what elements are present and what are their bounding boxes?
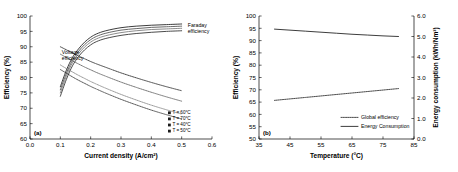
y-tick-label-b: 90 bbox=[249, 37, 256, 44]
legend-label-a-0: T = 60°C bbox=[172, 110, 191, 115]
x-tick-label-a: 0.2 bbox=[86, 141, 95, 148]
axes-b bbox=[259, 16, 414, 139]
x-tick-label-b: 75 bbox=[380, 141, 387, 148]
x-tick-label-a: 0.0 bbox=[26, 141, 35, 148]
figure-container: 0.00.10.20.30.40.50.6 606570758085909510… bbox=[0, 0, 458, 172]
y-tick-label-a: 100 bbox=[17, 12, 28, 19]
y-tick-label-a: 65 bbox=[20, 120, 27, 127]
y-tick-label-b: 75 bbox=[249, 74, 256, 81]
y-axis-title-b: Efficiency (%) bbox=[232, 56, 240, 99]
y-tick-label-a: 90 bbox=[20, 43, 27, 50]
y2-tick-label-b: 0.0 bbox=[417, 135, 426, 142]
x-tick-label-b: 55 bbox=[318, 141, 325, 148]
y-tick-label-a: 70 bbox=[20, 104, 27, 111]
legend-item-a-0[interactable]: T = 60°C bbox=[168, 110, 191, 115]
chart-a-svg: 0.00.10.20.30.40.50.6 606570758085909510… bbox=[0, 0, 229, 172]
legend-item-a-2[interactable]: T = 40°C bbox=[168, 122, 191, 127]
chart-panel-a: 0.00.10.20.30.40.50.6 606570758085909510… bbox=[0, 0, 229, 172]
data-curves-b bbox=[275, 29, 399, 100]
x-tick-label-a: 0.6 bbox=[208, 141, 217, 148]
y2-axis-title-b: Energy consumption (kWh/Nm³) bbox=[432, 27, 440, 127]
y2-tick-label-b: 3.0 bbox=[417, 74, 426, 81]
y2-tick-label-b: 1.0 bbox=[417, 115, 426, 122]
y-tick-label-a: 75 bbox=[20, 89, 27, 96]
legend-marker-square-filled bbox=[168, 111, 171, 114]
y-tick-label-b: 85 bbox=[249, 49, 256, 56]
y-tick-label-b: 55 bbox=[249, 123, 256, 130]
x-axis-title-a: Current density (A/cm²) bbox=[84, 152, 157, 160]
x-tick-label-a: 0.1 bbox=[56, 141, 65, 148]
legend-item-a-3[interactable]: T = 50°C bbox=[168, 128, 191, 133]
x-tick-label-a: 0.5 bbox=[177, 141, 186, 148]
y-tick-labels-b: 50556065707580859095100 bbox=[246, 12, 257, 142]
y2-tick-label-b: 5.0 bbox=[417, 33, 426, 40]
legend-b[interactable]: Global efficiencyEnergy Consumption bbox=[341, 114, 410, 129]
x-tick-labels-a: 0.00.10.20.30.40.50.6 bbox=[26, 141, 217, 148]
x-tick-label-a: 0.3 bbox=[117, 141, 126, 148]
y-tick-label-a: 80 bbox=[20, 74, 27, 81]
y-tick-labels-a: 6065707580859095100 bbox=[17, 12, 28, 142]
chart-b-svg: 354555657585 50556065707580859095100 0.0… bbox=[229, 0, 458, 172]
y-tick-label-a: 95 bbox=[20, 28, 27, 35]
y-tick-label-a: 60 bbox=[20, 135, 27, 142]
annotations-a: FaradayefficiencyVoltageefficiency bbox=[62, 22, 210, 61]
legend-label-b-1: Energy Consumption bbox=[361, 123, 410, 129]
legend-a[interactable]: T = 60°CT = 70°CT = 40°CT = 50°C bbox=[168, 110, 191, 133]
legend-item-b-0[interactable]: Global efficiency bbox=[341, 114, 399, 120]
x-axis-title-b: Temperature (°C) bbox=[310, 152, 363, 160]
chart-panel-b: 354555657585 50556065707580859095100 0.0… bbox=[229, 0, 458, 172]
y2-tick-label-b: 4.0 bbox=[417, 53, 426, 60]
x-tick-label-b: 45 bbox=[287, 141, 294, 148]
y-tick-label-b: 95 bbox=[249, 25, 256, 32]
y-axis-title-a: Efficiency (%) bbox=[3, 56, 11, 99]
y-tick-label-b: 70 bbox=[249, 86, 256, 93]
legend-item-a-1[interactable]: T = 70°C bbox=[168, 116, 191, 121]
y2-tick-label-b: 2.0 bbox=[417, 94, 426, 101]
panel-label-a: (a) bbox=[34, 129, 42, 136]
legend-label-a-2: T = 40°C bbox=[172, 122, 191, 127]
annotation-a-3: efficiency bbox=[62, 55, 84, 61]
y-tick-label-b: 60 bbox=[249, 111, 256, 118]
curve-global-efficiency bbox=[275, 89, 399, 101]
annotation-a-1: efficiency bbox=[188, 28, 210, 34]
y-tick-label-b: 100 bbox=[246, 12, 257, 19]
curve-voltage-efficiency-t-50-c bbox=[60, 65, 181, 114]
legend-marker-square-filled bbox=[168, 130, 171, 133]
curve-faraday-efficiency-t-70-c bbox=[60, 31, 181, 97]
x-tick-label-b: 65 bbox=[349, 141, 356, 148]
y-tick-label-b: 80 bbox=[249, 61, 256, 68]
x-tick-label-b: 35 bbox=[256, 141, 263, 148]
y2-tick-label-b: 6.0 bbox=[417, 12, 426, 19]
y-tick-label-a: 85 bbox=[20, 58, 27, 65]
legend-label-b-0: Global efficiency bbox=[361, 114, 399, 120]
y-tick-label-b: 50 bbox=[249, 135, 256, 142]
y2-tick-labels-b: 0.01.02.03.04.05.06.0 bbox=[417, 12, 426, 142]
legend-marker-square-hatched bbox=[168, 124, 171, 127]
panel-label-b: (b) bbox=[263, 129, 271, 136]
legend-marker-square-dotted bbox=[168, 118, 171, 121]
x-tick-label-a: 0.4 bbox=[147, 141, 156, 148]
axis-frame-b bbox=[259, 16, 414, 139]
curve-energy-consumption bbox=[275, 29, 399, 36]
legend-label-a-1: T = 70°C bbox=[172, 116, 191, 121]
y-tick-label-b: 65 bbox=[249, 98, 256, 105]
x-tick-labels-b: 354555657585 bbox=[256, 141, 418, 148]
data-curves-a bbox=[60, 24, 181, 119]
legend-label-a-3: T = 50°C bbox=[172, 128, 191, 133]
legend-item-b-1[interactable]: Energy Consumption bbox=[341, 123, 410, 129]
